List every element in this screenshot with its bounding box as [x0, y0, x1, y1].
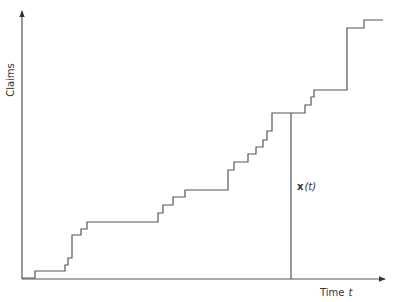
x-axis-label: Timet: [319, 287, 353, 298]
y-axis-label: Claims: [5, 63, 16, 97]
claims-step-chart: Claims Timet x(t): [0, 0, 393, 302]
xt-annotation: x(t): [297, 181, 316, 192]
claims-step-line: [22, 20, 383, 278]
